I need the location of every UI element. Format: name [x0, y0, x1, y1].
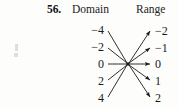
domain-value: 2	[82, 75, 104, 87]
hub-node	[126, 62, 129, 65]
domain-value: 0	[82, 58, 104, 70]
domain-edge	[108, 31, 127, 63]
range-arrow	[129, 65, 150, 80]
range-value: 2	[155, 92, 177, 104]
range-value: −1	[155, 42, 177, 54]
range-value: −2	[155, 25, 177, 37]
scan-speck	[15, 44, 18, 51]
exercise-figure: 56. Domain Range −4−2024 −2−1012	[0, 0, 179, 109]
mapping-diagram: −4−2024 −2−1012	[0, 0, 179, 109]
range-value: 1	[155, 75, 177, 87]
domain-edge	[108, 65, 127, 97]
range-value: 0	[155, 58, 177, 70]
range-arrow	[129, 65, 150, 97]
domain-value: −2	[82, 41, 104, 53]
scan-speck	[14, 53, 18, 57]
range-arrow	[129, 48, 150, 63]
range-arrow	[129, 31, 150, 63]
domain-edge	[108, 65, 127, 80]
range-edges	[129, 31, 150, 97]
domain-value: −4	[82, 24, 104, 36]
domain-value: 4	[82, 92, 104, 104]
domain-edge	[108, 48, 127, 63]
domain-edges	[108, 31, 127, 97]
